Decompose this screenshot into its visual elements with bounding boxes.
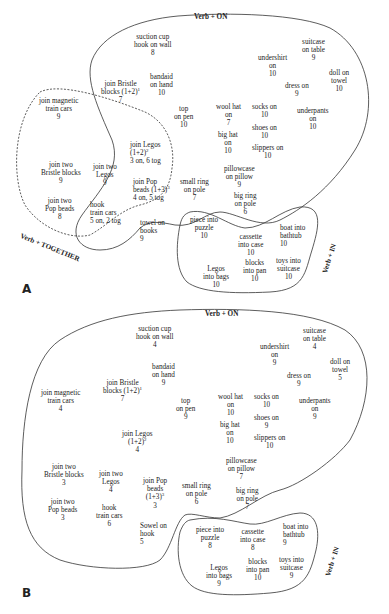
item-big-hat: big haton10 xyxy=(218,131,238,156)
item-join-pop-beads: join Popbeads(1+3)33 xyxy=(143,477,167,510)
item-join-two-bristle: join twoBristle blocks3 xyxy=(44,463,84,488)
item-join-two-pop: join twoPop beads8 xyxy=(45,197,74,222)
item-hook-train-cars: hooktrain cars5 on, 2 tog xyxy=(90,201,121,226)
item-cassette: cassetteinto case10 xyxy=(238,233,263,258)
item-suitcase-on-table: suitcaseon table4 xyxy=(303,327,326,352)
item-suction-cup: suction cuphook on wall8 xyxy=(134,33,172,58)
item-socks-on: socks on10 xyxy=(254,393,279,409)
item-top-on-pen: topon pen10 xyxy=(174,105,193,130)
item-join-bristle: join Bristleblocks (1+2)17 xyxy=(103,379,142,404)
item-hook-train-cars: hooktrain cars6 xyxy=(96,504,123,529)
item-join-magnetic: join magnetictrain cars4 xyxy=(41,389,80,414)
panel-a: Verb + ON Verb + TOGETHER Verb + IN A su… xyxy=(0,0,389,300)
item-join-legos: join Legos(1+2)23 on, 6 tog xyxy=(130,141,161,166)
item-legos-into-bags: Legosinto bags9 xyxy=(206,564,232,589)
item-join-bristle: join Bristleblocks (1+2)17 xyxy=(101,80,140,105)
item-towel-on-books: towel onbooks9 xyxy=(140,219,165,244)
item-piece-into-puzzle: piece intopuzzle8 xyxy=(196,526,224,551)
item-underpants: underpantson10 xyxy=(297,107,329,132)
item-big-ring: big ringon pole6 xyxy=(234,192,257,217)
item-top-on-pen: topon pen9 xyxy=(176,397,195,422)
item-shoes-on: shoes on10 xyxy=(252,124,277,140)
panel-b: Verb + ON Verb + IN B suction cuphook on… xyxy=(0,300,389,614)
item-toys-into-suitcase: toys intosuitcase10 xyxy=(276,257,301,282)
item-big-ring: big ringon pole7 xyxy=(236,487,259,512)
item-wool-hat: wool haton10 xyxy=(218,393,243,418)
item-join-legos: join Legos(1+2)24 xyxy=(122,430,153,455)
item-small-ring: small ringon pole6 xyxy=(182,482,211,507)
item-slippers-on: slippers on10 xyxy=(252,144,283,160)
item-legos-into-bags: Legosinto bags10 xyxy=(203,265,229,290)
item-big-hat: big haton10 xyxy=(220,421,240,446)
item-blocks-into-pan: blocksinto pan10 xyxy=(243,259,266,284)
item-bandaid: bandaidon hand9 xyxy=(152,363,175,388)
item-undershirt: undershirton10 xyxy=(258,54,287,79)
item-boat-into-bathtub: boat intobathtub10 xyxy=(280,224,305,249)
item-socks-on: socks on10 xyxy=(252,103,277,119)
item-undershirt: undershirton9 xyxy=(260,343,289,368)
item-join-two-legos: join twoLegos4 xyxy=(99,470,123,495)
region-label-on: Verb + ON xyxy=(194,13,227,21)
item-sowel-on-hook: Sowel onhook5 xyxy=(140,522,167,547)
item-join-magnetic: join magnetictrain cars9 xyxy=(39,97,78,122)
region-label-on: Verb + ON xyxy=(205,310,238,318)
item-piece-into-puzzle: piece intopuzzle10 xyxy=(190,216,218,241)
item-join-two-bristle: join twoBristle blocks9 xyxy=(41,161,81,186)
panel-letter-a: A xyxy=(22,282,31,296)
item-bandaid: bandaidon hand10 xyxy=(150,73,173,98)
item-join-two-legos: join twoLegos9 xyxy=(93,163,117,188)
item-wool-hat: wool haton7 xyxy=(216,103,241,128)
item-toys-into-suitcase: toys intosuitcase9 xyxy=(279,556,304,581)
item-small-ring: small ringon pole7 xyxy=(180,178,209,203)
item-suction-cup: suction cuphook on wall4 xyxy=(136,325,174,350)
item-pillowcase: pillowcaseon pillow9 xyxy=(224,165,255,190)
item-join-two-pop: join twoPop beads3 xyxy=(48,498,77,523)
item-join-pop-beads: join Popbeads (1+3)34 on, 5 tog xyxy=(133,178,170,203)
item-dress-on: dress on9 xyxy=(287,372,311,388)
panel-letter-b: B xyxy=(22,586,31,600)
item-shoes-on: shoes on9 xyxy=(254,414,279,430)
item-slippers-on: slippers on10 xyxy=(254,434,285,450)
item-pillowcase: pillowcaseon pillow7 xyxy=(226,457,257,482)
item-underpants: underpantson9 xyxy=(299,397,331,422)
item-dress-on: dress on9 xyxy=(285,82,309,98)
item-boat-into-bathtub: boat intobathtub9 xyxy=(283,523,308,548)
item-cassette: cassetteinto case8 xyxy=(240,528,265,553)
item-doll-on-towel: doll ontowel5 xyxy=(330,358,350,383)
item-blocks-into-pan: blocksinto pan10 xyxy=(246,558,269,583)
item-suitcase-on-table: suitcaseon table9 xyxy=(302,38,325,63)
item-doll-on-towel: doll ontowel10 xyxy=(329,69,349,94)
